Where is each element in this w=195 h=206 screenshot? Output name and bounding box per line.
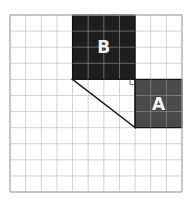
square-a-label: A: [152, 94, 166, 114]
pythagorean-grid-diagram: B A: [0, 0, 195, 206]
square-b-label: B: [97, 37, 110, 57]
right-angle-marker: [130, 79, 135, 84]
square-a: A: [135, 79, 182, 127]
square-b: B: [73, 15, 136, 79]
